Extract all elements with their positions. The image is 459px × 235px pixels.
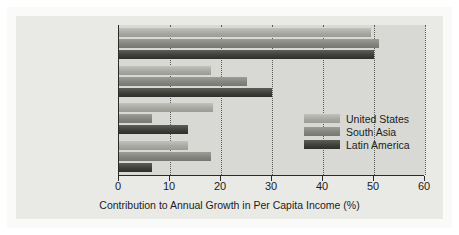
x-axis-tick-label: 50 xyxy=(367,180,379,192)
bar xyxy=(119,66,211,75)
x-axis-tick-label: 20 xyxy=(214,180,226,192)
x-axis-tick-label: 60 xyxy=(418,180,430,192)
bar xyxy=(119,141,188,150)
chart-canvas: Contribution to Annual Growth in Per Cap… xyxy=(0,0,459,235)
x-axis-tick-label: 30 xyxy=(265,180,277,192)
legend-swatch-united-states xyxy=(304,114,340,123)
legend-label-south-asia: South Asia xyxy=(346,126,396,138)
bar xyxy=(119,39,379,48)
bar xyxy=(119,103,213,112)
gridline xyxy=(425,25,426,175)
legend-swatch-south-asia xyxy=(304,127,340,136)
bar xyxy=(119,28,371,37)
legend-item: Latin America xyxy=(304,138,410,151)
x-axis-title: Contribution to Annual Growth in Per Cap… xyxy=(0,199,459,211)
bar xyxy=(119,163,152,172)
chart-legend: United States South Asia Latin America xyxy=(304,112,410,151)
legend-item: United States xyxy=(304,112,410,125)
bar xyxy=(119,114,152,123)
bar xyxy=(119,125,188,134)
plot-area xyxy=(118,25,425,175)
x-axis-tick-label: 10 xyxy=(163,180,175,192)
legend-swatch-latin-america xyxy=(304,140,340,149)
legend-label-latin-america: Latin America xyxy=(346,139,410,151)
legend-item: South Asia xyxy=(304,125,410,138)
bar xyxy=(119,50,374,59)
bar xyxy=(119,152,211,161)
legend-label-united-states: United States xyxy=(346,113,409,125)
bar xyxy=(119,88,272,97)
x-axis-tick-label: 40 xyxy=(316,180,328,192)
x-axis-tick-label: 0 xyxy=(115,180,121,192)
bar-group xyxy=(119,28,425,59)
chart-figure: Contribution to Annual Growth in Per Cap… xyxy=(0,0,459,235)
bar xyxy=(119,77,247,86)
bar-group xyxy=(119,66,425,97)
x-axis-line xyxy=(118,175,424,176)
